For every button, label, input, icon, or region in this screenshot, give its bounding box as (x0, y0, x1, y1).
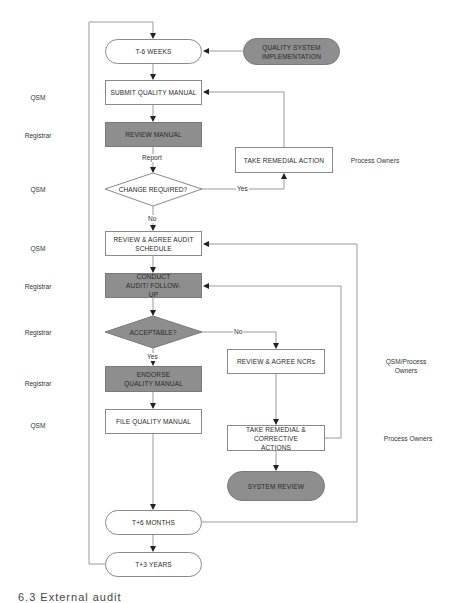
role-file: QSM (10, 421, 66, 430)
yes-change-edge-label: Yes (236, 185, 249, 193)
system-review-node: SYSTEM REVIEW (227, 471, 325, 501)
role-endorse: Registrar (10, 379, 66, 388)
t-plus-3-years-node: T+3 YEARS (105, 552, 202, 577)
role-review: Registrar (10, 131, 66, 140)
take-remedial-corrective-actions-node: TAKE REMEDIAL & CORRECTIVE ACTIONS (227, 425, 325, 451)
file-quality-manual-node: FILE QUALITY MANUAL (105, 409, 202, 434)
t-plus-6-months-node: T+6 MONTHS (105, 510, 202, 535)
t-minus-6-weeks-node: T-6 WEEKS (105, 39, 202, 64)
review-agree-audit-schedule-node: REVIEW & AGREE AUDIT SCHEDULE (105, 231, 202, 256)
acceptable-label: ACCEPTABLE? (115, 328, 191, 337)
role-change: QSM (10, 185, 66, 194)
role-ncrs: QSM/Process Owners (378, 357, 434, 375)
role-acceptable: Registrar (10, 328, 66, 337)
no-change-edge-label: No (147, 215, 157, 223)
review-agree-ncrs-node: REVIEW & AGREE NCRs (227, 349, 325, 374)
change-required-label: CHANGE REQUIRED? (110, 185, 196, 194)
edge-remedial-to-submit (204, 92, 284, 147)
review-manual-node: REVIEW MANUAL (105, 122, 202, 147)
figure-caption: 6.3 External audit (18, 591, 122, 603)
role-conduct: Registrar (10, 282, 66, 291)
role-corrective-actions: Process Owners (378, 434, 438, 443)
submit-quality-manual-node: SUBMIT QUALITY MANUAL (105, 80, 202, 105)
role-schedule: QSM (10, 244, 66, 253)
quality-system-implementation-node: QUALITY SYSTEM IMPLEMENTATION (243, 38, 340, 65)
conduct-audit-follow-up-node: CONDUCT AUDIT/ FOLLOW-UP (105, 273, 202, 298)
role-submit: QSM (10, 93, 66, 102)
yes-acceptable-edge-label: Yes (146, 353, 159, 361)
role-remedial-action: Process Owners (345, 156, 405, 165)
no-acceptable-edge-label: No (233, 328, 243, 336)
take-remedial-action-node: TAKE REMEDIAL ACTION (235, 147, 333, 173)
report-edge-label: Report (141, 154, 163, 162)
endorse-quality-manual-node: ENDORSE QUALITY MANUAL (105, 366, 202, 392)
